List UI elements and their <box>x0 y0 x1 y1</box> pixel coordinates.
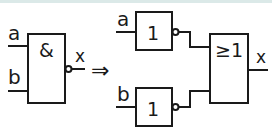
label-input-b-left: b <box>8 65 21 89</box>
label-input-b-right: b <box>117 82 130 106</box>
not-bottom-bubble <box>173 104 179 110</box>
or-symbol: ≥1 <box>215 39 243 61</box>
nand-output-bubble <box>66 66 72 72</box>
wire-not-top-to-or <box>179 32 211 47</box>
label-output-x-left: x <box>75 46 85 66</box>
wire-not-bottom-to-or <box>179 91 211 107</box>
logic-diagram: a b & x ⇒ a 1 b 1 ≥1 x <box>0 0 272 128</box>
label-input-a-left: a <box>8 21 20 45</box>
not-top-bubble <box>173 29 179 35</box>
implies-arrow: ⇒ <box>91 58 109 83</box>
label-output-x-right: x <box>256 47 266 67</box>
label-input-a-right: a <box>117 7 129 31</box>
not-bottom-symbol: 1 <box>147 98 159 120</box>
not-top-symbol: 1 <box>147 22 159 44</box>
nand-symbol: & <box>39 39 54 61</box>
